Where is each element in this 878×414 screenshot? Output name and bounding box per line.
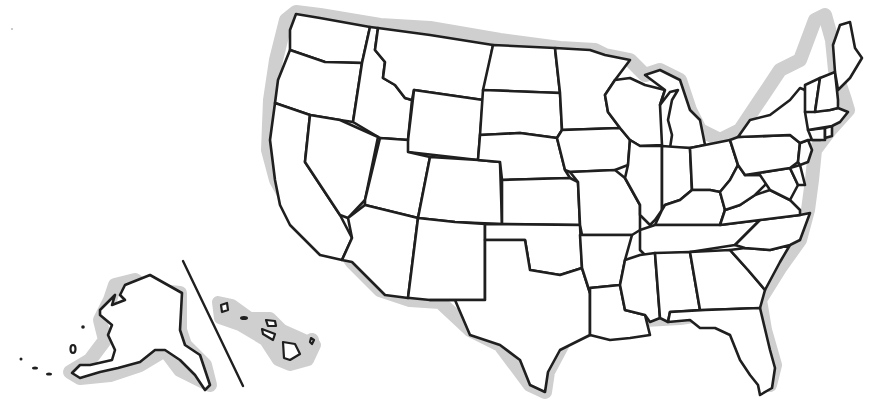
state-colorado[interactable] [418, 157, 502, 224]
state-wyoming[interactable] [405, 90, 483, 160]
hawaii-island-kauai[interactable] [221, 303, 228, 312]
hawaii-island-molokai[interactable] [266, 320, 276, 326]
state-south-dakota[interactable] [480, 90, 562, 138]
state-pennsylvania[interactable] [730, 135, 800, 175]
aleutian-island [20, 358, 23, 361]
state-maine[interactable] [833, 22, 862, 90]
state-kansas[interactable] [502, 178, 580, 225]
aleutian-island [46, 372, 52, 375]
hawaii-island-oahu[interactable] [240, 316, 248, 320]
state-arizona[interactable] [342, 205, 418, 298]
state-north-dakota[interactable] [483, 45, 560, 93]
aleutian-island [32, 366, 38, 369]
hawaii-inset [218, 302, 315, 365]
state-florida[interactable] [668, 308, 775, 395]
hawaii-island-small [310, 338, 314, 344]
speck [11, 28, 13, 30]
state-iowa[interactable] [557, 128, 630, 172]
alaska-island [81, 325, 85, 329]
us-outline-map [0, 0, 878, 414]
state-new-mexico[interactable] [408, 218, 485, 300]
alaska-island [71, 345, 76, 353]
